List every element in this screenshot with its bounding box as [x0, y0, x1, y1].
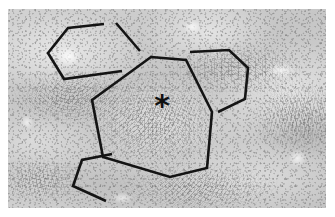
figure-root: * — [0, 0, 335, 217]
annotation-upper-left-stub — [116, 23, 140, 51]
annotation-upper-left-polygon — [48, 24, 122, 79]
micrograph-panel: * — [8, 9, 326, 208]
asterisk-marker: * — [142, 84, 182, 128]
annotation-right-polygon — [190, 50, 248, 112]
annotation-lower-left-polygon — [73, 154, 112, 201]
